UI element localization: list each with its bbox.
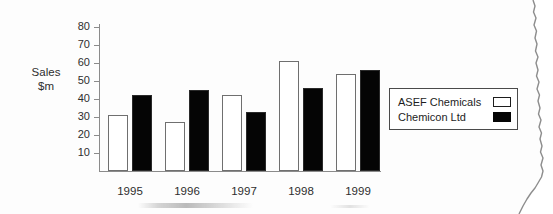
y-axis-tick-label: 60 — [64, 57, 90, 68]
scan-smudge — [138, 203, 253, 208]
chart-legend: ASEF Chemicals Chemicon Ltd — [389, 88, 518, 130]
legend-label: Chemicon Ltd — [398, 111, 466, 123]
x-axis-tick-label: 1998 — [277, 185, 325, 197]
y-axis-tick: 30 — [52, 117, 100, 118]
bar — [360, 70, 380, 171]
y-axis-tick: 80 — [52, 27, 100, 28]
legend-item: Chemicon Ltd — [398, 109, 511, 124]
bar — [303, 88, 323, 171]
y-axis-tick-label: 40 — [64, 93, 90, 104]
y-axis-tick-label: 70 — [64, 39, 90, 50]
bar-chart: Sales $m 8070605040302010 19951996199719… — [0, 0, 553, 214]
bar-group: 1995 — [108, 11, 156, 171]
x-axis-tick-label: 1996 — [163, 185, 211, 197]
bar — [108, 115, 128, 171]
legend-swatch-hollow-icon — [493, 97, 511, 107]
scanned-page: Sales $m 8070605040302010 19951996199719… — [0, 0, 553, 214]
x-axis-tick-label: 1995 — [106, 185, 154, 197]
bar-group: 1996 — [165, 11, 213, 171]
y-axis-tick: 60 — [52, 63, 100, 64]
y-axis-tick: 40 — [52, 99, 100, 100]
bar — [336, 74, 356, 171]
x-axis-tick-label: 1997 — [220, 185, 268, 197]
bar — [132, 95, 152, 171]
y-axis-tick: 50 — [52, 81, 100, 82]
y-axis-tick: 20 — [52, 135, 100, 136]
y-axis-tick-label: 10 — [64, 147, 90, 158]
bar — [165, 122, 185, 171]
y-axis-tick-label: 50 — [64, 75, 90, 86]
legend-label: ASEF Chemicals — [398, 96, 481, 108]
y-axis-tick-label: 30 — [64, 111, 90, 122]
y-axis-tick-label: 80 — [64, 21, 90, 32]
y-axis-tick: 10 — [52, 153, 100, 154]
bar-group: 1997 — [222, 11, 270, 171]
bar-group: 1999 — [336, 11, 384, 171]
bars-layer: 19951996199719981999 — [99, 0, 384, 214]
bar-group: 1998 — [279, 11, 327, 171]
legend-swatch-filled-icon — [493, 112, 511, 122]
y-axis-tick: 70 — [52, 45, 100, 46]
bar — [189, 90, 209, 171]
bar — [279, 61, 299, 171]
bar — [246, 112, 266, 171]
legend-item: ASEF Chemicals — [398, 94, 511, 109]
bar — [222, 95, 242, 171]
y-axis-tick-label: 20 — [64, 129, 90, 140]
x-axis-tick-label: 1999 — [334, 185, 382, 197]
scan-smudge — [330, 205, 370, 208]
